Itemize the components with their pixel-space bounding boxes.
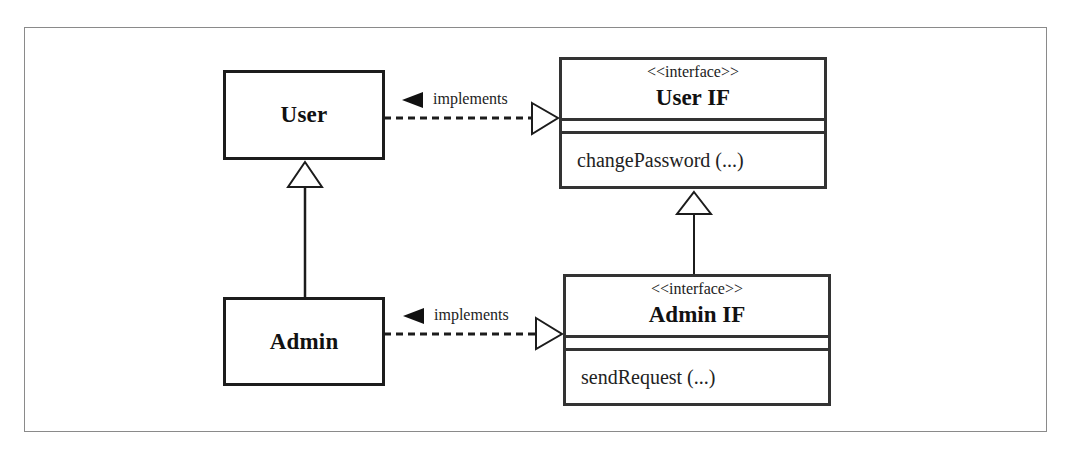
- interface-name: User IF: [562, 84, 824, 112]
- diagram-frame: [24, 27, 1047, 432]
- class-admin[interactable]: Admin: [223, 297, 385, 386]
- interface-name: Admin IF: [566, 301, 828, 329]
- implements-label-top: implements: [433, 90, 508, 108]
- operations-compartment: changePassword (...): [562, 134, 824, 186]
- interface-user-if[interactable]: <<interface>> User IF changePassword (..…: [559, 57, 827, 189]
- stereotype-label: <<interface>>: [562, 63, 824, 81]
- attributes-compartment: [566, 338, 828, 351]
- class-user[interactable]: User: [223, 70, 385, 160]
- interface-admin-if[interactable]: <<interface>> Admin IF sendRequest (...): [563, 274, 831, 406]
- implements-label-bottom: implements: [434, 306, 509, 324]
- stereotype-label: <<interface>>: [566, 280, 828, 298]
- class-name: User: [281, 102, 328, 128]
- class-name: Admin: [270, 329, 339, 355]
- attributes-compartment: [562, 121, 824, 134]
- operation: sendRequest (...): [581, 366, 715, 389]
- interface-header: <<interface>> User IF: [562, 60, 824, 121]
- operations-compartment: sendRequest (...): [566, 351, 828, 403]
- operation: changePassword (...): [577, 149, 744, 172]
- interface-header: <<interface>> Admin IF: [566, 277, 828, 338]
